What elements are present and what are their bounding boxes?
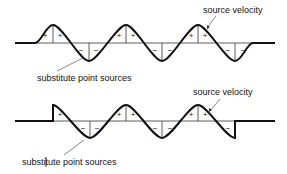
minus-sign: − xyxy=(168,46,173,55)
plus-sign: + xyxy=(189,110,194,119)
minus-sign: − xyxy=(81,124,86,133)
plus-sign: + xyxy=(58,110,63,119)
bottom-diagram: +−−++−−++− substitute point sources sour… xyxy=(15,87,275,167)
minus-sign: − xyxy=(168,124,173,133)
minus-sign: − xyxy=(95,124,100,133)
bottom-sources-label: substitute point sources xyxy=(22,157,117,167)
bottom-sources-leader xyxy=(64,140,84,155)
minus-sign: − xyxy=(241,46,246,55)
plus-sign: + xyxy=(58,31,63,40)
bottom-velocity-label: source velocity xyxy=(193,87,253,97)
minus-sign: − xyxy=(153,124,158,133)
plus-sign: + xyxy=(117,110,122,119)
bottom-velocity-arrow xyxy=(210,99,220,111)
plus-sign: + xyxy=(203,31,208,40)
bottom-wave xyxy=(15,105,275,138)
top-sources-leader xyxy=(57,58,83,71)
top-velocity-label: source velocity xyxy=(203,5,263,15)
plus-sign: + xyxy=(131,110,136,119)
plus-sign: + xyxy=(43,31,48,40)
top-diagram: ++−−++−−++−− substitute point sources so… xyxy=(15,5,275,83)
top-sources-label: substitute point sources xyxy=(37,73,132,83)
minus-sign: − xyxy=(79,46,84,55)
plus-sign: + xyxy=(117,31,122,40)
plus-sign: + xyxy=(203,110,208,119)
minus-sign: − xyxy=(226,46,231,55)
minus-sign: − xyxy=(94,46,99,55)
minus-sign: − xyxy=(226,124,231,133)
plus-sign: + xyxy=(189,31,194,40)
wave-diagram: ++−−++−−++−− substitute point sources so… xyxy=(0,0,287,174)
plus-sign: + xyxy=(131,31,136,40)
minus-sign: − xyxy=(153,46,158,55)
